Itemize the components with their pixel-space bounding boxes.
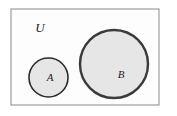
venn-diagram-canvas: U A B <box>0 0 177 116</box>
set-a-label: A <box>46 71 54 83</box>
venn-diagram-figure: U A B <box>0 0 177 116</box>
set-b-label: B <box>118 68 125 80</box>
universe-label: U <box>35 20 46 35</box>
set-b-circle <box>80 30 148 98</box>
